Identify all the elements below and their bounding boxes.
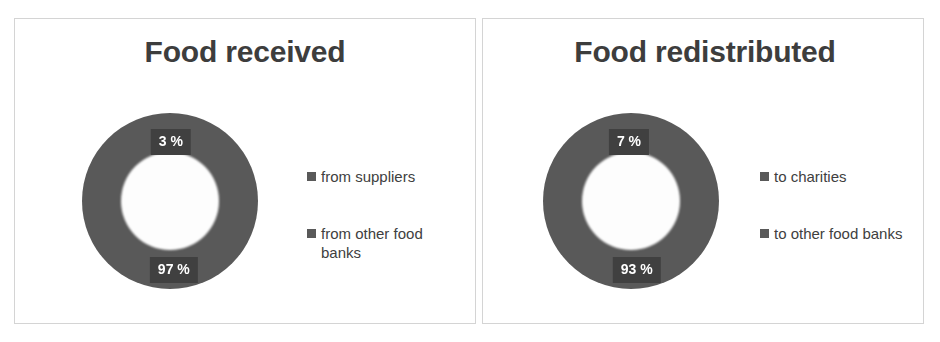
chart-panel-food-received: Food received 3 % 97 % from suppliers fr…	[14, 18, 476, 324]
legend-item-label: to other food banks	[774, 224, 910, 243]
chart-legend-food-redistributed: to charities to other food banks	[760, 167, 910, 243]
doughnut-hole	[121, 152, 219, 250]
data-label-small-slice: 7 %	[609, 129, 649, 155]
screenshot-root: Food received 3 % 97 % from suppliers fr…	[0, 0, 940, 342]
chart-title-food-received: Food received	[15, 35, 475, 69]
legend-item-to-other-food-banks: to other food banks	[760, 224, 910, 243]
doughnut-chart-food-received: 3 % 97 %	[82, 113, 258, 289]
legend-item-from-other-food-banks: from other food banks	[307, 224, 457, 262]
legend-swatch-icon	[760, 172, 769, 181]
legend-swatch-icon	[760, 229, 769, 238]
legend-swatch-icon	[307, 229, 316, 238]
data-label-small-slice: 3 %	[151, 129, 191, 155]
chart-title-food-redistributed: Food redistributed	[483, 35, 923, 69]
legend-item-label: from suppliers	[321, 167, 457, 186]
legend-item-label: to charities	[774, 167, 910, 186]
data-label-large-slice: 97 %	[150, 257, 198, 283]
legend-item-label: from other food banks	[321, 224, 457, 262]
legend-item-to-charities: to charities	[760, 167, 910, 186]
doughnut-hole	[582, 152, 680, 250]
doughnut-chart-food-redistributed: 7 % 93 %	[543, 113, 719, 289]
chart-legend-food-received: from suppliers from other food banks	[307, 167, 457, 262]
chart-panel-food-redistributed: Food redistributed 7 % 93 % to charities…	[482, 18, 924, 324]
data-label-large-slice: 93 %	[613, 257, 661, 283]
legend-swatch-icon	[307, 172, 316, 181]
legend-item-from-suppliers: from suppliers	[307, 167, 457, 186]
